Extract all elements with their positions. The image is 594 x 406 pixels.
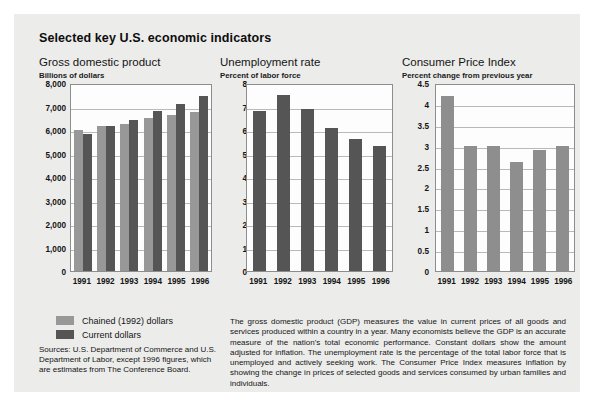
x-axis-unemployment: 199119921993199419951996 xyxy=(246,274,393,292)
chart-title-cpi: Consumer Price Index xyxy=(402,56,578,69)
bar-unemployment-1995-0 xyxy=(349,139,362,271)
bar-unemployment-1994-0 xyxy=(325,128,338,271)
y-tick-label: 0 xyxy=(61,268,66,277)
bar-group xyxy=(188,85,211,271)
y-axis-cpi: 4.543.532.521.510.50 xyxy=(402,84,432,272)
bar-gdp-1994-1 xyxy=(153,111,162,271)
bar-group xyxy=(505,85,528,271)
x-tick-label: 1993 xyxy=(482,274,505,286)
bar-cpi-1991-0 xyxy=(441,96,454,271)
plot-area-unemployment xyxy=(246,84,393,272)
bar-group xyxy=(482,85,505,271)
y-tick-label: 2,000 xyxy=(46,221,67,230)
legend-swatch-current xyxy=(56,330,74,339)
y-tick-label: 2.5 xyxy=(418,163,429,172)
bar-cpi-1994-0 xyxy=(510,162,523,271)
bar-gdp-1995-0 xyxy=(167,115,176,271)
legend-swatch-chained xyxy=(56,316,74,325)
bar-group xyxy=(459,85,482,271)
x-tick-label: 1991 xyxy=(70,274,94,286)
y-tick-label: 2 xyxy=(424,184,429,193)
bar-gdp-1996-1 xyxy=(199,96,208,271)
x-tick-label: 1995 xyxy=(344,274,369,286)
bar-group-cpi xyxy=(436,85,574,271)
y-tick-label: 3 xyxy=(424,142,429,151)
x-tick-label: 1991 xyxy=(246,274,271,286)
bar-unemployment-1991-0 xyxy=(253,111,266,271)
bar-group xyxy=(551,85,574,271)
legend-label-current: Current dollars xyxy=(82,330,141,340)
x-tick-label: 1992 xyxy=(458,274,481,286)
x-tick-label: 1994 xyxy=(505,274,528,286)
bar-group xyxy=(247,85,271,271)
chart-area-cpi: 4.543.532.521.510.50 1991199219931994199… xyxy=(402,84,578,296)
sources-note: Sources: U.S. Department of Commerce and… xyxy=(39,345,221,376)
y-tick-label: 4.5 xyxy=(418,80,429,89)
bar-gdp-1996-0 xyxy=(190,112,199,271)
x-tick-label: 1995 xyxy=(165,274,189,286)
bar-group-gdp xyxy=(71,85,211,271)
x-tick-label: 1992 xyxy=(271,274,296,286)
x-tick-label: 1996 xyxy=(552,274,575,286)
y-tick-label: 4,000 xyxy=(46,174,67,183)
bar-gdp-1991-1 xyxy=(83,134,92,271)
bar-gdp-1991-0 xyxy=(74,130,83,271)
y-tick-label: 3,000 xyxy=(46,197,67,206)
bar-group xyxy=(528,85,551,271)
bar-gdp-1993-1 xyxy=(129,120,138,271)
y-tick-label: 4 xyxy=(424,100,429,109)
x-axis-cpi: 199119921993199419951996 xyxy=(435,274,575,292)
bar-group xyxy=(320,85,344,271)
chart-title-gdp: Gross domestic product xyxy=(39,56,215,69)
chart-title-unemployment: Unemployment rate xyxy=(220,56,396,69)
bar-gdp-1992-1 xyxy=(106,126,115,271)
plot-area-cpi xyxy=(435,84,575,272)
bar-unemployment-1996-0 xyxy=(373,146,386,271)
x-tick-label: 1993 xyxy=(295,274,320,286)
bar-group xyxy=(436,85,459,271)
y-tick-label: 0 xyxy=(424,268,429,277)
bar-cpi-1995-0 xyxy=(533,150,546,271)
bar-unemployment-1993-0 xyxy=(301,109,314,271)
bar-group xyxy=(71,85,94,271)
y-tick-label: 1 xyxy=(424,226,429,235)
y-tick-label: 7,000 xyxy=(46,103,67,112)
x-tick-label: 1996 xyxy=(369,274,394,286)
legend-item-chained: Chained (1992) dollars xyxy=(56,314,173,327)
y-tick-label: 5,000 xyxy=(46,150,67,159)
bar-group xyxy=(141,85,164,271)
bar-group xyxy=(164,85,187,271)
chart-area-gdp: 8,0007,0006,0005,0004,0003,0002,0001,000… xyxy=(39,84,215,296)
bar-unemployment-1992-0 xyxy=(277,95,290,271)
bar-group-unemployment xyxy=(247,85,392,271)
x-tick-label: 1995 xyxy=(528,274,551,286)
y-tick-label: 3.5 xyxy=(418,121,429,130)
x-tick-label: 1996 xyxy=(188,274,212,286)
chart-panel-cpi: Consumer Price Index Percent change from… xyxy=(402,56,578,296)
y-tick-label: 8,000 xyxy=(46,80,67,89)
bar-gdp-1992-0 xyxy=(97,126,106,271)
y-axis-gdp: 8,0007,0006,0005,0004,0003,0002,0001,000… xyxy=(39,84,69,272)
legend-label-chained: Chained (1992) dollars xyxy=(82,316,173,326)
legend-item-current: Current dollars xyxy=(56,328,173,341)
bar-group xyxy=(344,85,368,271)
bar-cpi-1996-0 xyxy=(556,146,569,271)
bar-cpi-1992-0 xyxy=(464,146,477,271)
x-tick-label: 1991 xyxy=(435,274,458,286)
y-tick-label: 0.5 xyxy=(418,247,429,256)
x-tick-label: 1994 xyxy=(141,274,165,286)
page-title: Selected key U.S. economic indicators xyxy=(39,31,271,45)
plot-area-gdp xyxy=(70,84,212,272)
x-tick-label: 1992 xyxy=(94,274,118,286)
x-tick-label: 1993 xyxy=(117,274,141,286)
y-tick-label: 1,000 xyxy=(46,244,67,253)
y-tick-label: 6,000 xyxy=(46,127,67,136)
x-tick-label: 1994 xyxy=(320,274,345,286)
bar-group xyxy=(295,85,319,271)
description-text: The gross domestic product (GDP) measure… xyxy=(230,317,566,389)
bar-group xyxy=(271,85,295,271)
bar-gdp-1993-0 xyxy=(120,124,129,271)
chart-panel-gdp: Gross domestic product Billions of dolla… xyxy=(39,56,215,296)
chart-panel-unemployment: Unemployment rate Percent of labor force… xyxy=(220,56,396,296)
bar-gdp-1995-1 xyxy=(176,104,185,271)
